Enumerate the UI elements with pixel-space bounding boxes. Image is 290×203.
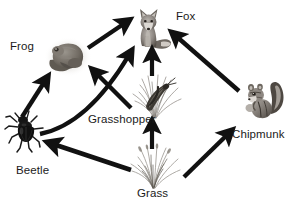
arrow-frog-to-fox (88, 23, 125, 48)
arrow-grass-to-chipmunk (184, 134, 228, 177)
arrow-beetle-to-frog (22, 81, 45, 117)
label-grass: Grass (137, 188, 168, 200)
food-web-diagram: Fox Frog Beetle Grasshopper Grass Chipmu… (0, 0, 290, 203)
label-beetle: Beetle (16, 165, 49, 177)
label-fox: Fox (176, 11, 195, 23)
arrow-grass-to-beetle (53, 144, 131, 170)
label-frog: Frog (10, 41, 34, 53)
arrow-chipmunk-to-fox (176, 36, 239, 91)
label-grasshopper: Grasshopper (88, 114, 156, 126)
label-chipmunk: Chipmunk (232, 129, 285, 141)
